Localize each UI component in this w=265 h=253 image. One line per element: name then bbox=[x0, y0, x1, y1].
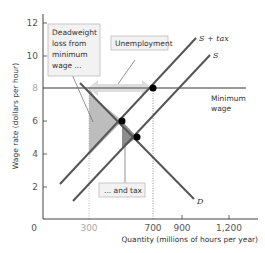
y-tick-4: 4 bbox=[32, 149, 38, 159]
y-axis-title: Wage rate (dollars per hour) bbox=[11, 63, 20, 169]
y-tick-12: 12 bbox=[27, 18, 38, 28]
x-tick-300: 300 bbox=[80, 223, 97, 233]
x-tick-900: 900 bbox=[173, 223, 190, 233]
y-tick-8: 8 bbox=[32, 83, 38, 93]
x-axis-title: Quantity (millions of hours per year) bbox=[121, 235, 258, 244]
svg-text:minimum: minimum bbox=[52, 50, 88, 59]
curve-label-s-tax: S + tax bbox=[199, 34, 229, 43]
and-tax-annotation-box: ... and tax bbox=[99, 183, 145, 197]
min-wage-label-1: Minimum bbox=[211, 94, 246, 103]
point-min-wage-700 bbox=[150, 85, 157, 92]
y-tick-6: 6 bbox=[32, 116, 38, 126]
min-wage-label-2: wage bbox=[211, 104, 231, 113]
x-tick-1200: 1,200 bbox=[216, 223, 242, 233]
svg-text:Unemployment: Unemployment bbox=[115, 39, 173, 48]
curve-label-d: D bbox=[196, 197, 204, 206]
chart: 12 10 8 6 4 2 0 300 700 900 1,200 Quanti… bbox=[0, 0, 265, 253]
unemployment-annotation-box: Unemployment bbox=[111, 36, 173, 50]
curve-label-s: S bbox=[213, 51, 219, 60]
svg-text:loss from: loss from bbox=[52, 39, 86, 48]
point-s-tax-equilibrium bbox=[119, 118, 126, 125]
y-tick-2: 2 bbox=[32, 182, 38, 192]
svg-text:Deadweight: Deadweight bbox=[52, 28, 97, 37]
x-tick-0: 0 bbox=[31, 223, 37, 233]
y-tick-10: 10 bbox=[27, 51, 39, 61]
x-tick-700: 700 bbox=[144, 223, 161, 233]
unemployment-leader-line bbox=[118, 60, 135, 84]
svg-text:wage ...: wage ... bbox=[52, 61, 82, 70]
svg-text:... and tax: ... and tax bbox=[104, 186, 143, 195]
dwl-annotation-box: Deadweight loss from minimum wage ... bbox=[48, 24, 100, 76]
point-s-equilibrium bbox=[134, 134, 141, 141]
x-ticks bbox=[182, 215, 229, 219]
y-ticks bbox=[43, 23, 47, 187]
